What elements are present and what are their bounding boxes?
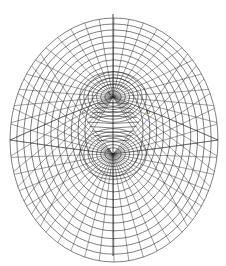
field-line xyxy=(14,154,113,174)
field-lines xyxy=(10,18,218,262)
point-label: B xyxy=(107,147,111,153)
field-line xyxy=(113,19,129,97)
field-line xyxy=(113,154,209,191)
field-line xyxy=(71,154,113,251)
field-line-diagram: ABCD xyxy=(0,0,226,266)
field-line xyxy=(35,154,113,220)
field-line xyxy=(58,154,113,243)
equipotential-curve xyxy=(17,24,211,254)
field-line xyxy=(11,97,113,156)
field-line xyxy=(113,97,217,156)
field-line xyxy=(24,97,113,201)
field-line xyxy=(113,97,204,201)
point-label: C xyxy=(82,109,86,115)
field-line xyxy=(19,154,113,191)
point-label: A xyxy=(106,90,111,96)
point-label: D xyxy=(146,109,150,115)
equipotential-curve xyxy=(44,48,184,223)
equipotential-curve xyxy=(37,42,191,231)
